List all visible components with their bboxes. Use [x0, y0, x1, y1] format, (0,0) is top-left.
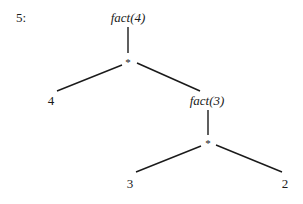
edge-op2-to-3 — [136, 146, 201, 172]
expression-tree-diagram: 5: fact(4) * 4 fact(3) * 3 2 — [0, 0, 303, 204]
edge-op1-to-4 — [57, 65, 122, 91]
node-fact4: fact(4) — [111, 11, 146, 24]
node-leaf-3: 3 — [127, 177, 134, 190]
node-multiply-1: * — [125, 57, 131, 68]
step-label: 5: — [16, 11, 26, 24]
tree-edges — [0, 0, 303, 204]
edge-op2-to-2 — [216, 145, 282, 172]
node-leaf-2: 2 — [282, 177, 289, 190]
edge-op1-to-fact3 — [137, 63, 200, 91]
node-multiply-2: * — [205, 138, 211, 149]
node-leaf-4: 4 — [48, 94, 55, 107]
node-fact3: fact(3) — [190, 94, 225, 107]
